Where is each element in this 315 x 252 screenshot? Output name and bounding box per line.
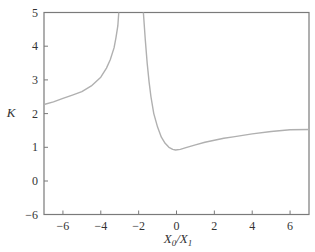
x-tick-label: −2 [132, 219, 145, 233]
y-tick-label: 0 [32, 174, 38, 188]
y-tick-label: −6 [25, 208, 38, 222]
x-tick-label: 6 [287, 219, 293, 233]
y-tick-label: 3 [32, 73, 38, 87]
y-tick-label: 5 [32, 6, 38, 20]
x-tick-label: −4 [94, 219, 107, 233]
y-axis-label: K [6, 105, 17, 120]
chart-canvas: −6−4−20246 −6012345 K X0/X1 [0, 0, 315, 252]
plot-border [44, 13, 309, 215]
x-axis-ticks: −6−4−20246 [57, 211, 294, 233]
x-tick-label: 4 [249, 219, 255, 233]
x-tick-label: −6 [57, 219, 70, 233]
x-axis-label: X0/X1 [163, 231, 193, 248]
plot-frame [44, 13, 309, 215]
y-tick-label: 2 [32, 107, 38, 121]
x-tick-label: 2 [211, 219, 217, 233]
y-tick-label: 4 [32, 39, 38, 53]
y-tick-label: 1 [32, 140, 38, 154]
data-curves [44, 13, 309, 151]
curve-left-branch [44, 13, 119, 105]
curve-right-branch [143, 13, 309, 151]
x-label-sub1: 1 [188, 238, 193, 248]
